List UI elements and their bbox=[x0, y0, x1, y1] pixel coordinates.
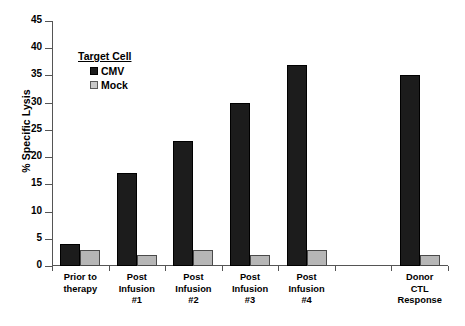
y-tick-label-30: 30 bbox=[18, 96, 42, 107]
category-label: PostInfusion#4 bbox=[272, 272, 342, 307]
category-label-line: Infusion bbox=[272, 284, 342, 296]
y-tick-40: 40 bbox=[45, 48, 52, 49]
y-tick-10: 10 bbox=[45, 212, 52, 213]
legend-label-cmv: CMV bbox=[101, 65, 124, 77]
y-tick-label-35: 35 bbox=[18, 68, 42, 79]
category-label: DonorCTLResponse bbox=[385, 272, 455, 307]
bar-cmv bbox=[230, 103, 250, 266]
x-tick-2 bbox=[165, 266, 166, 271]
y-tick-25: 25 bbox=[45, 130, 52, 131]
y-tick-label-15: 15 bbox=[18, 177, 42, 188]
y-tick-15: 15 bbox=[45, 184, 52, 185]
legend-title: Target Cell bbox=[78, 50, 131, 62]
bar-mock bbox=[307, 250, 327, 266]
category-label-line: Donor bbox=[385, 272, 455, 284]
cmv-swatch-icon bbox=[90, 67, 98, 75]
category-label-line: #4 bbox=[272, 295, 342, 307]
bar-cmv bbox=[173, 141, 193, 266]
bar-mock bbox=[137, 255, 157, 266]
bar-cmv bbox=[117, 173, 137, 266]
y-axis-line bbox=[52, 21, 53, 266]
x-tick-5 bbox=[335, 266, 336, 271]
y-tick-label-25: 25 bbox=[18, 123, 42, 134]
y-tick-5: 5 bbox=[45, 239, 52, 240]
bar-mock bbox=[80, 250, 100, 266]
x-tick-1 bbox=[109, 266, 110, 271]
bar-cmv bbox=[60, 244, 80, 266]
legend-item-cmv: CMV bbox=[78, 65, 131, 77]
y-tick-35: 35 bbox=[45, 75, 52, 76]
x-tick-4 bbox=[278, 266, 279, 271]
bar-mock bbox=[250, 255, 270, 266]
x-tick-6 bbox=[391, 266, 392, 271]
mock-swatch-icon bbox=[90, 81, 98, 89]
category-label-line: Post bbox=[272, 272, 342, 284]
bar-mock bbox=[420, 255, 440, 266]
bar-cmv bbox=[287, 65, 307, 266]
legend: Target Cell CMV Mock bbox=[78, 50, 131, 91]
bar-chart: % Specific Lysis 454035302520151050 Prio… bbox=[0, 0, 465, 326]
y-tick-label-45: 45 bbox=[18, 14, 42, 25]
y-tick-label-40: 40 bbox=[18, 41, 42, 52]
bar-mock bbox=[193, 250, 213, 266]
y-tick-45: 45 bbox=[45, 21, 52, 22]
y-tick-label-5: 5 bbox=[18, 232, 42, 243]
bar-cmv bbox=[400, 75, 420, 266]
y-tick-label-10: 10 bbox=[18, 205, 42, 216]
x-tick-7 bbox=[448, 266, 449, 271]
y-tick-label-20: 20 bbox=[18, 150, 42, 161]
y-tick-30: 30 bbox=[45, 103, 52, 104]
legend-item-mock: Mock bbox=[78, 79, 131, 91]
category-label-line: Response bbox=[385, 295, 455, 307]
y-tick-label-0: 0 bbox=[18, 259, 42, 270]
legend-label-mock: Mock bbox=[101, 79, 128, 91]
y-tick-20: 20 bbox=[45, 157, 52, 158]
x-tick-0 bbox=[52, 266, 53, 271]
x-tick-3 bbox=[222, 266, 223, 271]
category-label-line: CTL bbox=[385, 284, 455, 296]
y-tick-0: 0 bbox=[45, 266, 52, 267]
